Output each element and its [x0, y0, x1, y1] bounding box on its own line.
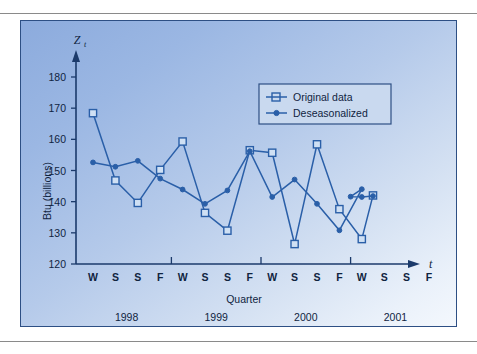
x-season-label: S — [313, 271, 320, 283]
y-axis-arrowhead — [72, 50, 80, 62]
time-series-figure-panel: 120130140150160170180 WSSFWSSFWSSFWSSF 1… — [20, 20, 457, 327]
x-season-label: F — [336, 271, 343, 283]
series-line-original-data — [93, 113, 373, 244]
data-point-marker-fill — [89, 110, 96, 117]
data-point-filled-dot[interactable] — [203, 201, 208, 206]
data-point-filled-dot[interactable] — [359, 187, 364, 192]
data-point-marker-fill — [336, 206, 343, 213]
x-season-label: W — [88, 271, 98, 283]
legend-entry-original-data[interactable]: Original data — [266, 91, 353, 103]
data-point-filled-dot[interactable] — [225, 188, 230, 193]
y-axis — [72, 50, 80, 264]
data-point-filled-dot[interactable] — [292, 177, 297, 182]
x-season-label: F — [157, 271, 164, 283]
y-tick-label: 180 — [48, 71, 66, 83]
x-year-label: 2000 — [294, 311, 318, 323]
x-axis-season-labels: WSSFWSSFWSSFWSSF — [88, 271, 433, 283]
x-axis-year-labels: 1998199920002001 — [115, 311, 407, 323]
y-axis-title: Btu (billions) — [41, 162, 53, 220]
data-point-marker-fill — [179, 138, 186, 145]
data-point-filled-dot[interactable] — [158, 176, 163, 181]
x-season-label: W — [178, 271, 188, 283]
data-point-filled-dot[interactable] — [135, 158, 140, 163]
data-point-marker-fill — [358, 235, 365, 242]
data-point-marker-fill — [313, 141, 320, 148]
x-season-label: F — [247, 271, 254, 283]
x-year-label: 1998 — [115, 311, 139, 323]
data-point-filled-dot[interactable] — [359, 195, 364, 200]
data-point-filled-dot[interactable] — [315, 201, 320, 206]
x-season-label: S — [291, 271, 298, 283]
data-point-marker-fill — [112, 177, 119, 184]
x-season-label: W — [267, 271, 277, 283]
x-season-label: S — [112, 271, 119, 283]
legend-marker-filled-dot — [274, 110, 279, 115]
legend-label-original-data: Original data — [293, 91, 353, 103]
x-season-label: S — [201, 271, 208, 283]
x-year-label: 1999 — [205, 311, 229, 323]
y-axis-variable-label: Z — [74, 33, 81, 47]
data-point-filled-dot[interactable] — [180, 187, 185, 192]
y-tick-label: 130 — [48, 227, 66, 239]
data-point-filled-dot[interactable] — [113, 164, 118, 169]
y-tick-label: 160 — [48, 133, 66, 145]
data-point-marker-fill — [291, 240, 298, 247]
data-point-filled-dot[interactable] — [337, 228, 342, 233]
x-season-label: S — [134, 271, 141, 283]
data-point-filled-dot[interactable] — [371, 194, 376, 199]
x-season-label: S — [224, 271, 231, 283]
data-point-filled-dot[interactable] — [270, 195, 275, 200]
x-axis-variable-label: t — [429, 257, 433, 271]
y-tick-label: 120 — [48, 258, 66, 270]
x-axis-arrowhead — [408, 260, 420, 268]
line-chart-svg: 120130140150160170180 WSSFWSSFWSSFWSSF 1… — [21, 21, 458, 328]
x-season-label: S — [403, 271, 410, 283]
series-layer — [89, 110, 376, 248]
y-tick-label: 170 — [48, 102, 66, 114]
data-point-filled-dot[interactable] — [247, 149, 252, 154]
x-axis — [76, 260, 420, 268]
x-season-label: S — [381, 271, 388, 283]
series-line-deseasonalized — [93, 151, 373, 230]
y-axis-variable-subscript: t — [84, 40, 87, 49]
x-season-label: F — [426, 271, 433, 283]
x-season-label: W — [357, 271, 367, 283]
data-point-marker-fill — [224, 227, 231, 234]
data-point-filled-dot[interactable] — [348, 194, 353, 199]
x-axis-ticks — [171, 257, 350, 264]
x-axis-title: Quarter — [226, 293, 262, 305]
data-point-marker-fill — [269, 149, 276, 156]
legend-label-deseasonalized: Deseasonalized — [293, 107, 368, 119]
page-rule-bottom — [0, 341, 477, 342]
data-point-filled-dot[interactable] — [91, 160, 96, 165]
data-point-marker-fill — [134, 199, 141, 206]
chart-legend[interactable]: Original data Deseasonalized — [259, 84, 391, 124]
x-year-label: 2001 — [384, 311, 408, 323]
data-point-marker-fill — [201, 209, 208, 216]
data-point-marker-fill — [157, 166, 164, 173]
page-rule-top — [0, 13, 477, 14]
